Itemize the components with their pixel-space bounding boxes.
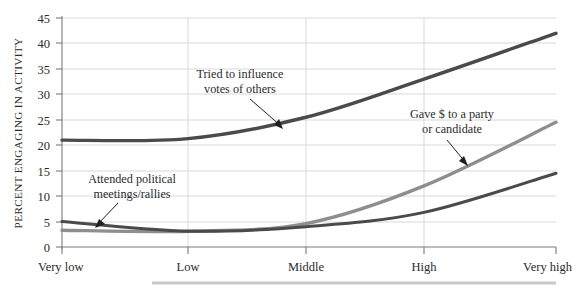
- line-chart: 45 40 35 30 25 20 15 10 5 0 PERCENT ENGA…: [0, 0, 576, 292]
- y-axis-title: PERCENT ENGAGING IN ACTIVITY: [12, 38, 24, 229]
- ytick-label-40: 40: [38, 37, 51, 51]
- annotation-influence-votes-line1: Tried to influence: [197, 67, 284, 81]
- xtick-label-low: Low: [177, 260, 200, 274]
- ytick-label-5: 5: [44, 216, 50, 230]
- ytick-label-30: 30: [38, 88, 51, 102]
- ytick-label-25: 25: [38, 114, 51, 128]
- y-tickmarks: [56, 18, 62, 247]
- annotation-gave-money-arrowhead: [459, 156, 468, 166]
- annotation-attended-meetings-line2: meetings/rallies: [93, 187, 170, 201]
- ytick-label-10: 10: [38, 190, 51, 204]
- x-tick-labels: Very low Low Middle High Very high: [38, 260, 573, 274]
- y-tick-labels: 45 40 35 30 25 20 15 10 5 0: [38, 12, 51, 255]
- annotation-gave-money-line2: or candidate: [422, 122, 482, 136]
- ytick-label-45: 45: [38, 12, 51, 26]
- ytick-label-0: 0: [44, 241, 50, 255]
- x-tickmarks: [62, 247, 556, 254]
- xtick-label-high: High: [412, 260, 438, 274]
- annotation-influence-votes-line2: votes of others: [204, 82, 276, 96]
- ytick-label-35: 35: [38, 63, 51, 77]
- xtick-label-very-low: Very low: [38, 260, 83, 274]
- chart-container: 45 40 35 30 25 20 15 10 5 0 PERCENT ENGA…: [0, 0, 576, 292]
- xtick-label-middle: Middle: [288, 260, 325, 274]
- ytick-label-15: 15: [38, 165, 51, 179]
- xtick-label-very-high: Very high: [523, 260, 573, 274]
- annotation-influence-votes-leader: [250, 99, 281, 126]
- annotation-attended-meetings-line1: Attended political: [88, 172, 176, 186]
- annotation-gave-money-line1: Gave $ to a party: [410, 107, 495, 121]
- ytick-label-20: 20: [38, 139, 51, 153]
- annotation-attended-meetings: Attended political meetings/rallies: [88, 172, 176, 228]
- annotation-gave-money: Gave $ to a party or candidate: [410, 107, 495, 166]
